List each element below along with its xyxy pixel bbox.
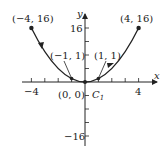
parabola-diagram: (−4, 16) (4, 16) (−1, 1) (1, 1) (0, 0) 1… <box>0 0 165 154</box>
point-origin <box>83 80 87 84</box>
y-tick-label-16: 16 <box>70 23 83 34</box>
point-1-1 <box>97 77 101 81</box>
x-axis-label: x <box>154 70 160 81</box>
label-point-neg1-1: (−1, 1) <box>50 50 85 61</box>
point-neg1-1 <box>70 77 74 81</box>
point-neg4-16 <box>29 26 33 30</box>
curve-label: C1 <box>92 89 104 102</box>
y-axis-label: y <box>76 8 83 19</box>
x-tick-label-neg4: −4 <box>24 86 39 97</box>
point-4-16 <box>136 26 140 30</box>
label-point-4-16: (4, 16) <box>120 13 153 24</box>
label-point-neg4-16: (−4, 16) <box>12 13 54 24</box>
y-tick-label-neg16: −16 <box>64 131 85 142</box>
label-point-1-1: (1, 1) <box>94 50 121 61</box>
x-tick-label-4: 4 <box>135 86 141 97</box>
label-point-origin: (0, 0) <box>58 89 85 100</box>
